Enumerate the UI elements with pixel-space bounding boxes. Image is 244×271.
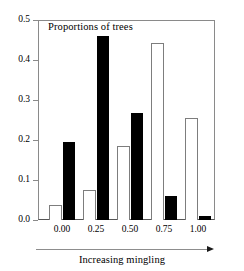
arrow-shaft: [36, 249, 208, 250]
x-tick-label-1: 0.25: [88, 224, 105, 235]
x-axis: 0.00 0.25 0.50 0.75 1.00: [38, 224, 215, 238]
bar-black-2: [131, 113, 144, 220]
bar-black-3: [165, 196, 178, 220]
y-tick-label-5: 0.5: [18, 15, 30, 25]
y-tick-label-1: 0.1: [18, 175, 30, 185]
bar-white-3: [151, 43, 164, 220]
x-axis-label: Increasing mingling: [0, 253, 244, 266]
y-tick-mark-0: [33, 220, 38, 221]
bar-black-0: [63, 142, 76, 220]
bar-black-4: [199, 216, 212, 220]
bar-white-2: [117, 146, 130, 220]
x-tick-label-2: 0.50: [122, 224, 139, 235]
y-tick-label-4: 0.4: [18, 55, 30, 65]
y-tick-label-0: 0.0: [18, 215, 30, 225]
x-tick-label-3: 0.75: [156, 224, 173, 235]
bar-white-1: [83, 190, 96, 220]
bar-black-1: [97, 36, 110, 220]
y-tick-label-2: 0.2: [18, 135, 30, 145]
increasing-mingling-arrow-icon: [36, 246, 214, 253]
bar-chart-figure: 0.0 0.1 0.2 0.3 0.4 0.5 Proportions of t…: [0, 0, 244, 271]
y-axis: 0.0 0.1 0.2 0.3 0.4 0.5: [0, 0, 38, 271]
bar-white-0: [49, 205, 62, 220]
y-tick-label-3: 0.3: [18, 95, 30, 105]
arrow-head-icon: [207, 246, 214, 252]
x-tick-label-4: 1.00: [190, 224, 207, 235]
bars-layer: [38, 20, 215, 220]
x-tick-label-0: 0.00: [54, 224, 71, 235]
bar-white-4: [185, 118, 198, 220]
